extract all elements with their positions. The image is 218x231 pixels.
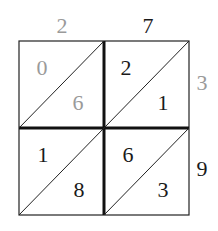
diagonal [19, 128, 104, 215]
cell-tens-digit: 2 [121, 55, 132, 80]
cell-ones-digit: 8 [74, 177, 85, 202]
multiplicand-digit: 2 [57, 13, 68, 38]
diagonal [104, 128, 189, 215]
cell-ones-digit: 6 [73, 90, 84, 115]
cell-ones-digit: 1 [158, 90, 169, 115]
cell-tens-digit: 1 [38, 142, 49, 167]
multiplicand-digit: 7 [143, 13, 154, 38]
lattice-diagram: 2 7 3 9 0 6 2 1 1 8 6 3 [0, 0, 218, 231]
diagonal [19, 41, 104, 128]
cell-ones-digit: 3 [158, 177, 169, 202]
cell-tens-digit: 0 [37, 55, 48, 80]
cell-tens-digit: 6 [123, 142, 134, 167]
multiplier-digit: 3 [197, 70, 208, 95]
multiplier-digit: 9 [197, 156, 208, 181]
diagonal [104, 41, 189, 128]
